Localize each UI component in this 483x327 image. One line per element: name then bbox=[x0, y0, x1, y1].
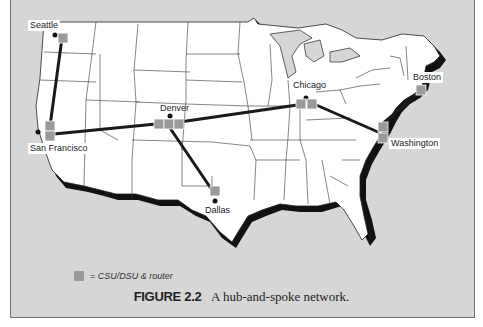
label-seattle: Seattle bbox=[28, 20, 60, 31]
router-boston bbox=[416, 85, 426, 95]
seattle-dot bbox=[53, 33, 58, 38]
router-washington-1 bbox=[378, 122, 388, 132]
figure-number: FIGURE 2.2 bbox=[134, 289, 202, 304]
router-legend-icon bbox=[74, 271, 84, 281]
figure-description: A hub-and-spoke network. bbox=[211, 289, 349, 304]
dallas-dot bbox=[213, 199, 218, 204]
legend: = CSU/DSU & router bbox=[74, 271, 173, 281]
router-sanfrancisco-2 bbox=[45, 131, 55, 141]
legend-text: = CSU/DSU & router bbox=[90, 271, 173, 281]
router-denver-3 bbox=[174, 119, 184, 129]
router-sanfrancisco-1 bbox=[45, 121, 55, 131]
label-chicago: Chicago bbox=[291, 80, 328, 91]
router-washington-2 bbox=[378, 133, 388, 143]
figure-caption: FIGURE 2.2 A hub-and-spoke network. bbox=[0, 289, 483, 305]
router-denver-2 bbox=[164, 119, 174, 129]
router-denver-1 bbox=[154, 119, 164, 129]
router-chicago-2 bbox=[307, 99, 317, 109]
sanfrancisco-dot bbox=[36, 130, 41, 135]
label-dallas: Dallas bbox=[203, 205, 232, 216]
denver-dot bbox=[168, 114, 173, 119]
us-map bbox=[0, 0, 483, 327]
label-boston: Boston bbox=[411, 72, 443, 83]
label-san-francisco: San Francisco bbox=[28, 143, 90, 154]
router-dallas bbox=[210, 186, 220, 196]
label-washington: Washington bbox=[389, 138, 440, 149]
router-chicago-1 bbox=[296, 99, 306, 109]
router-seattle bbox=[58, 33, 68, 43]
label-denver: Denver bbox=[158, 103, 191, 114]
